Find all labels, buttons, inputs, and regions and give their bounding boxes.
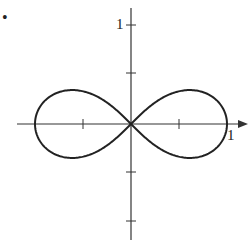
y-tick-label-1: 1	[116, 17, 124, 32]
x-axis-arrow	[238, 120, 248, 128]
x-tick-label-1: 1	[227, 128, 235, 143]
lemniscate-chart	[0, 0, 250, 248]
